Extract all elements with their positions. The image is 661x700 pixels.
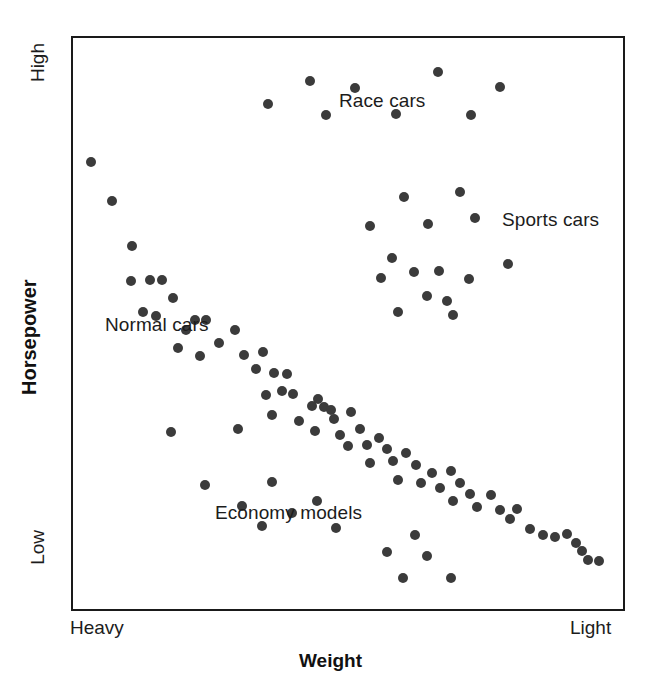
data-point — [423, 219, 433, 229]
data-point — [86, 157, 96, 167]
data-point — [294, 416, 304, 426]
data-point — [455, 478, 465, 488]
data-point — [594, 556, 604, 566]
data-point — [251, 364, 261, 374]
annotation-normal-cars: Normal cars — [105, 314, 209, 336]
data-point — [365, 221, 375, 231]
data-point — [577, 546, 587, 556]
y-axis-low-label: Low — [27, 530, 49, 565]
annotation-sports-cars: Sports cars — [502, 209, 599, 231]
scatter-plot-figure: Horsepower High Low Heavy Light Weight R… — [0, 0, 661, 700]
data-point — [512, 504, 522, 514]
data-point — [288, 389, 298, 399]
data-point — [166, 427, 176, 437]
data-point — [382, 547, 392, 557]
data-point — [433, 67, 443, 77]
data-point — [239, 350, 249, 360]
data-point — [388, 456, 398, 466]
data-point — [267, 410, 277, 420]
data-point — [401, 448, 411, 458]
data-point — [562, 529, 572, 539]
data-point — [331, 523, 341, 533]
data-point — [448, 310, 458, 320]
data-point — [411, 460, 421, 470]
data-point — [277, 386, 287, 396]
data-point — [168, 293, 178, 303]
data-point — [313, 394, 323, 404]
x-axis-title: Weight — [0, 650, 661, 672]
data-point — [538, 530, 548, 540]
data-point — [387, 253, 397, 263]
data-point — [583, 555, 593, 565]
data-point — [464, 274, 474, 284]
data-point — [355, 424, 365, 434]
data-point — [550, 532, 560, 542]
data-point — [261, 390, 271, 400]
data-point — [107, 196, 117, 206]
data-point — [470, 213, 480, 223]
data-point — [200, 480, 210, 490]
data-point — [365, 458, 375, 468]
data-point — [157, 275, 167, 285]
data-point — [446, 573, 456, 583]
data-point — [434, 266, 444, 276]
data-point — [495, 505, 505, 515]
data-point — [321, 110, 331, 120]
data-point — [393, 475, 403, 485]
data-point — [329, 414, 339, 424]
data-point — [263, 99, 273, 109]
data-point — [319, 402, 329, 412]
plot-area: Race cars Sports cars Normal cars Econom… — [71, 36, 625, 611]
data-point — [374, 433, 384, 443]
data-point — [326, 405, 336, 415]
data-point — [422, 551, 432, 561]
data-point — [525, 524, 535, 534]
data-point — [214, 338, 224, 348]
data-point — [127, 241, 137, 251]
data-point — [410, 530, 420, 540]
data-point — [399, 192, 409, 202]
y-axis-high-label: High — [27, 43, 49, 82]
data-point — [409, 267, 419, 277]
x-axis-heavy-label: Heavy — [70, 617, 124, 639]
data-point — [427, 468, 437, 478]
data-point — [455, 187, 465, 197]
data-point — [435, 483, 445, 493]
data-point — [505, 514, 515, 524]
data-point — [382, 444, 392, 454]
data-point — [472, 502, 482, 512]
data-point — [335, 430, 345, 440]
data-point — [362, 440, 372, 450]
data-point — [126, 276, 136, 286]
data-point — [446, 466, 456, 476]
x-axis-light-label: Light — [570, 617, 611, 639]
data-point — [466, 110, 476, 120]
data-point — [448, 496, 458, 506]
data-point — [282, 369, 292, 379]
data-point — [145, 275, 155, 285]
data-point — [346, 407, 356, 417]
data-point — [393, 307, 403, 317]
data-point — [503, 259, 513, 269]
data-point — [173, 343, 183, 353]
data-point — [267, 477, 277, 487]
data-point — [398, 573, 408, 583]
data-point — [230, 325, 240, 335]
data-point — [269, 368, 279, 378]
annotation-race-cars: Race cars — [339, 90, 425, 112]
data-point — [343, 441, 353, 451]
data-point — [465, 489, 475, 499]
data-point — [486, 490, 496, 500]
data-point — [495, 82, 505, 92]
annotation-economy-models: Economy models — [215, 502, 362, 524]
data-point — [310, 426, 320, 436]
data-point — [376, 273, 386, 283]
data-point — [307, 401, 317, 411]
data-point — [258, 347, 268, 357]
y-axis-title: Horsepower — [18, 279, 41, 395]
data-point — [416, 478, 426, 488]
data-point — [442, 296, 452, 306]
data-point — [571, 538, 581, 548]
data-point — [233, 424, 243, 434]
data-point — [305, 76, 315, 86]
